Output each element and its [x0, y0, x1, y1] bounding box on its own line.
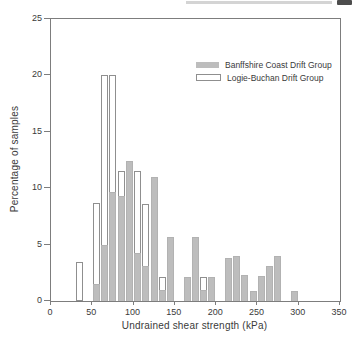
x-tick-label-100: 100 [118, 307, 148, 317]
x-tick-50 [91, 301, 92, 305]
y-axis-title: Percentage of samples [9, 106, 20, 212]
legend-item-0: Banffshire Coast Drift Group [196, 58, 332, 71]
y-tick-label-20: 20 [14, 69, 42, 79]
x-tick-350 [339, 301, 340, 305]
x-tick-150 [174, 301, 175, 305]
page-number-fragment [337, 0, 352, 5]
y-tick-25 [44, 18, 50, 19]
bar-filled-240 [250, 291, 257, 301]
x-tick-label-50: 50 [76, 307, 106, 317]
bar-filled-290 [291, 291, 298, 301]
bar-outlined-30 [76, 262, 83, 301]
bar-filled-60 [101, 245, 108, 301]
x-tick-label-200: 200 [200, 307, 230, 317]
bar-filled-100 [134, 253, 141, 302]
bar-filled-110 [142, 266, 149, 301]
legend-swatch-filled [196, 62, 219, 68]
x-tick-0 [50, 301, 51, 305]
bar-filled-190 [208, 277, 215, 301]
x-tick-250 [256, 301, 257, 305]
bar-filled-140 [167, 237, 174, 301]
legend-label: Logie-Buchan Drift Group [227, 73, 323, 83]
y-tick-label-25: 25 [14, 13, 42, 23]
bar-filled-70 [109, 192, 116, 301]
bar-filled-170 [192, 237, 199, 301]
bar-filled-50 [93, 284, 100, 301]
bar-filled-120 [151, 177, 158, 301]
legend-label: Banffshire Coast Drift Group [225, 60, 332, 70]
y-tick-20 [44, 74, 50, 75]
legend: Banffshire Coast Drift GroupLogie-Buchan… [196, 58, 332, 84]
bar-filled-260 [266, 266, 273, 301]
bar-filled-210 [225, 258, 232, 301]
bar-filled-80 [118, 196, 125, 301]
histogram-figure: Percentage of samples 0510152025 0501001… [0, 0, 361, 349]
x-tick-label-250: 250 [241, 307, 271, 317]
y-tick-label-5: 5 [14, 239, 42, 249]
y-tick-10 [44, 187, 50, 188]
y-tick-label-10: 10 [14, 182, 42, 192]
x-tick-label-0: 0 [35, 307, 65, 317]
bar-filled-220 [233, 256, 240, 301]
y-tick-label-15: 15 [14, 126, 42, 136]
bar-filled-130 [159, 290, 166, 301]
x-tick-100 [133, 301, 134, 305]
x-tick-label-350: 350 [324, 307, 354, 317]
page-header-fragment [186, 1, 332, 4]
bar-filled-250 [258, 276, 265, 301]
bar-filled-160 [184, 277, 191, 301]
legend-swatch-outlined [196, 74, 221, 81]
bar-filled-270 [274, 256, 281, 301]
x-tick-label-300: 300 [283, 307, 313, 317]
legend-item-1: Logie-Buchan Drift Group [196, 71, 332, 84]
y-tick-15 [44, 131, 50, 132]
x-axis-title: Undrained shear strength (kPa) [50, 320, 339, 331]
bar-filled-180 [200, 290, 207, 301]
bar-filled-230 [241, 275, 248, 301]
x-tick-label-150: 150 [159, 307, 189, 317]
x-tick-300 [298, 301, 299, 305]
y-tick-5 [44, 244, 50, 245]
x-tick-200 [215, 301, 216, 305]
y-tick-label-0: 0 [14, 295, 42, 305]
bar-filled-90 [126, 161, 133, 301]
